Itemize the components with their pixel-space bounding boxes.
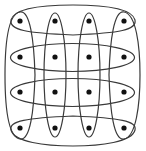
vertex-r3-c3 (86, 89, 91, 94)
vertex-r4-c1 (17, 125, 22, 130)
hypergraph-diagram (0, 0, 146, 151)
vertex-r3-c4 (121, 89, 126, 94)
hyperedge-row-3 (11, 79, 135, 107)
hyperedge-row-2 (11, 44, 135, 72)
hyperedge-col-3 (78, 13, 100, 137)
vertex-r4-c3 (86, 125, 91, 130)
hyperedge-col-4 (109, 12, 140, 139)
vertex-r2-c1 (17, 54, 22, 59)
vertex-r4-c2 (52, 125, 57, 130)
hyperedge-row-1 (11, 5, 135, 35)
hyperedge-col-1 (5, 12, 35, 139)
vertex-r4-c4 (121, 125, 126, 130)
vertex-r1-c3 (86, 18, 91, 23)
hyperedges (5, 5, 140, 146)
vertex-r1-c1 (17, 18, 22, 23)
vertex-r2-c2 (52, 54, 57, 59)
vertex-r2-c4 (121, 54, 126, 59)
vertex-r3-c2 (52, 89, 57, 94)
vertex-r2-c3 (86, 54, 91, 59)
diagram-svg (0, 0, 146, 151)
hyperedge-col-2 (44, 13, 66, 137)
vertex-r1-c2 (52, 18, 57, 23)
hyperedge-row-4 (11, 116, 135, 146)
vertex-r3-c1 (17, 89, 22, 94)
vertex-r1-c4 (121, 18, 126, 23)
